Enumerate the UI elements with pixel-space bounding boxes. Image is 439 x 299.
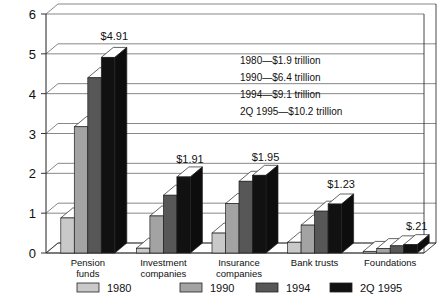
y-axis-tick-label: 3: [29, 127, 36, 142]
legend-label: 1994: [286, 282, 310, 294]
bar-value-label: $1.91: [176, 153, 204, 165]
legend-swatch: [180, 283, 202, 292]
legend-swatch: [330, 283, 352, 292]
legend-label: 2Q 1995: [360, 282, 402, 294]
chart-canvas: 0123456 $4.91$1.91$1.95$1.23$.21 Pension…: [0, 0, 439, 299]
legend-label: 1980: [107, 282, 131, 294]
legend-swatch: [77, 283, 99, 292]
x-axis-category-label: Pension: [71, 257, 105, 268]
y-axis-tick-label: 1: [29, 206, 36, 221]
bar-3d: [253, 165, 279, 253]
annotation-line: 1980—$1.9 trillion: [240, 55, 321, 66]
annotation-block: 1980—$1.9 trillion1990—$6.4 trillion1994…: [240, 55, 342, 117]
annotation-line: 1994—$9.1 trillion: [240, 89, 321, 100]
y-axis-tick-label: 5: [29, 47, 36, 62]
annotation-line: 1990—$6.4 trillion: [240, 72, 321, 83]
bar-value-label: $.21: [406, 220, 427, 232]
category-labels-group: PensionfundsInvestmentcompaniesInsurance…: [71, 257, 417, 279]
bar-3d: [177, 167, 203, 253]
bar-3d: [328, 194, 354, 253]
chart-legend: 1980199019942Q 1995: [77, 282, 402, 294]
y-axis-tick-label: 6: [29, 7, 36, 22]
legend-label: 1990: [210, 282, 234, 294]
bar-value-label: $4.91: [101, 30, 129, 42]
x-axis-category-label: companies: [140, 268, 186, 279]
y-axis-tick-label: 4: [29, 87, 36, 102]
x-axis-category-label: companies: [216, 268, 262, 279]
legend-swatch: [256, 283, 278, 292]
y-axis-tick-label: 2: [29, 166, 36, 181]
x-axis-category-label: Foundations: [364, 257, 417, 268]
bar-value-label: $1.95: [252, 151, 280, 163]
annotation-line: 2Q 1995—$10.2 trillion: [240, 106, 342, 117]
x-axis-category-label: Insurance: [218, 257, 260, 268]
y-axis-ticks: 0123456: [29, 7, 46, 261]
x-axis-category-label: Investment: [140, 257, 187, 268]
bar-chart: 0123456 $4.91$1.91$1.95$1.23$.21 Pension…: [0, 0, 439, 299]
bar-value-label: $1.23: [327, 178, 355, 190]
bar-3d: [101, 47, 127, 253]
y-axis-tick-label: 0: [29, 246, 36, 261]
x-axis-category-label: funds: [76, 268, 99, 279]
x-axis-category-label: Bank trusts: [291, 257, 339, 268]
